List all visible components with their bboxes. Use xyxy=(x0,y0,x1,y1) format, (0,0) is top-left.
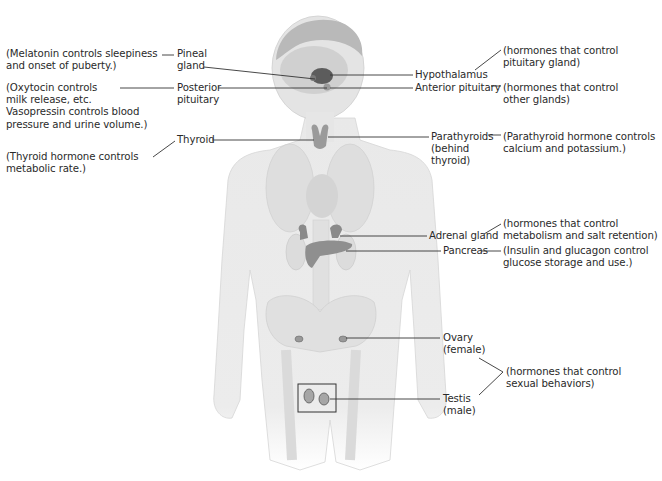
pancreas-function-line-2: glucose storage and use.) xyxy=(503,257,648,269)
anterior-pituitary-label-line-1: Anterior pituitary xyxy=(415,82,501,94)
testis-label: Testis (male) xyxy=(443,393,476,417)
posterior-pituitary-label-line-1: Posterior xyxy=(177,82,221,94)
pancreas-function: (Insulin and glucagon control glucose st… xyxy=(503,245,648,269)
pineal-function: (Melatonin controls sleepiness and onset… xyxy=(6,48,157,72)
pancreas-label: Pancreas xyxy=(443,245,488,257)
pineal-label-line-1: Pineal xyxy=(177,48,207,60)
sex-hormones-function-line-2: sexual behaviors) xyxy=(506,378,621,390)
posterior-pituitary-function-line-3: Vasopressin controls blood xyxy=(6,106,147,118)
sex-hormones-function: (hormones that control sexual behaviors) xyxy=(506,366,621,390)
posterior-pituitary-label-line-2: pituitary xyxy=(177,94,221,106)
pituitary-gland xyxy=(324,84,331,91)
sex-hormones-function-line-1: (hormones that control xyxy=(506,366,621,378)
pineal-label: Pineal gland xyxy=(177,48,207,72)
thyroid-label: Thyroid xyxy=(177,134,215,146)
pancreas-function-line-1: (Insulin and glucagon control xyxy=(503,245,648,257)
adrenal-function-line-1: (hormones that control xyxy=(503,218,658,230)
pineal-label-line-2: gland xyxy=(177,60,207,72)
posterior-pituitary-function-line-4: pressure and urine volume.) xyxy=(6,119,147,131)
parathyroids-function-line-2: calcium and potassium.) xyxy=(503,143,655,155)
pineal-gland xyxy=(310,75,316,81)
posterior-pituitary-function-line-1: (Oxytocin controls xyxy=(6,82,147,94)
ovary-left xyxy=(295,336,303,342)
adrenal-label-line-1: Adrenal gland xyxy=(429,230,498,242)
posterior-pituitary-function-line-2: milk release, etc. xyxy=(6,94,147,106)
testis-left xyxy=(304,389,314,403)
hypothalamus-function-line-1: (hormones that control xyxy=(503,45,618,57)
thyroid-function-line-1: (Thyroid hormone controls xyxy=(6,151,138,163)
testis-label-line-2: (male) xyxy=(443,405,476,417)
ovary-label-line-2: (female) xyxy=(443,344,485,356)
anterior-pituitary-label: Anterior pituitary xyxy=(415,82,501,94)
pineal-function-line-1: (Melatonin controls sleepiness xyxy=(6,48,157,60)
anterior-pituitary-function-line-1: (hormones that control xyxy=(503,82,618,94)
parathyroids-label-line-3: thyroid) xyxy=(431,155,493,167)
parathyroids-function-line-1: (Parathyroid hormone controls xyxy=(503,131,655,143)
hypothalamus-label-line-1: Hypothalamus xyxy=(415,69,488,81)
ovary-label-line-1: Ovary xyxy=(443,332,485,344)
pineal-function-line-2: and onset of puberty.) xyxy=(6,60,157,72)
pancreas-label-line-1: Pancreas xyxy=(443,245,488,257)
testis-label-line-1: Testis xyxy=(443,393,476,405)
thyroid-label-line-1: Thyroid xyxy=(177,134,215,146)
hypothalamus-function: (hormones that control pituitary gland) xyxy=(503,45,618,69)
adrenal-label: Adrenal gland xyxy=(429,230,498,242)
ovary-right xyxy=(339,336,347,342)
anterior-pituitary-function-line-2: other glands) xyxy=(503,94,618,106)
thyroid-function: (Thyroid hormone controls metabolic rate… xyxy=(6,151,138,175)
testis-right xyxy=(319,393,329,405)
parathyroids-label-line-1: Parathyroids xyxy=(431,131,493,143)
hypothalamus-label: Hypothalamus xyxy=(415,69,488,81)
posterior-pituitary-function: (Oxytocin controls milk release, etc. Va… xyxy=(6,82,147,131)
adrenal-function: (hormones that control metabolism and sa… xyxy=(503,218,658,242)
ovary-label: Ovary (female) xyxy=(443,332,485,356)
parathyroids-function: (Parathyroid hormone controls calcium an… xyxy=(503,131,655,155)
anterior-pituitary-function: (hormones that control other glands) xyxy=(503,82,618,106)
parathyroids-label-line-2: (behind xyxy=(431,143,493,155)
parathyroids-label: Parathyroids (behind thyroid) xyxy=(431,131,493,168)
adrenal-function-line-2: metabolism and salt retention) xyxy=(503,230,658,242)
posterior-pituitary-label: Posterior pituitary xyxy=(177,82,221,106)
hypothalamus-function-line-2: pituitary gland) xyxy=(503,57,618,69)
thyroid-function-line-2: metabolic rate.) xyxy=(6,163,138,175)
